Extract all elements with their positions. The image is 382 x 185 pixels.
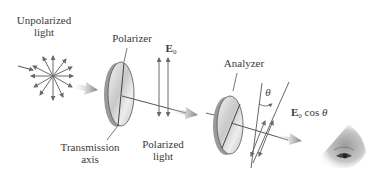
unpolarized-label-line2: light [14,26,74,38]
analyzer-disk-icon [206,96,243,155]
theta-symbol: θ [265,86,270,98]
incoming-ray [18,66,33,70]
polarizer-disk-icon [104,62,134,127]
polarizer-label-text: Polarizer [112,32,152,44]
beam-arrow-1-icon [71,82,98,95]
e0-cos-theta-label: E0 cos θ [291,106,327,122]
unpolarized-light-label: Unpolarized light [14,14,74,38]
transmission-label-line1: Transmission [58,141,122,153]
polarization-diagram: Unpolarized light Polarizer Transmission… [0,0,382,185]
e0-label: E0 [161,42,181,58]
polarizer-leader-line [124,48,127,62]
theta-label: θ [262,86,274,98]
analyzer-label: Analyzer [219,57,269,69]
unpolarized-label-line1: Unpolarized [14,14,74,26]
polarized-light-label: Polarized light [138,138,188,162]
unpolarized-light-starburst-icon [31,56,73,100]
theta-angle-arc [259,104,272,106]
observer-eye-icon [315,124,366,168]
polarized-label-line2: light [138,150,188,162]
e0-symbol: E [166,42,173,54]
transmission-axis-label: Transmission axis [58,141,122,165]
beam-arrow-3-icon [275,133,302,145]
cos-text: cos [302,106,322,118]
polarizer-label: Polarizer [107,32,157,44]
e0-subscript: 0 [173,48,177,56]
transmission-axis-leader-line [107,127,117,140]
transmission-label-line2: axis [58,153,122,165]
analyzer-label-text: Analyzer [224,57,264,69]
beam-arrow-2-icon [169,107,198,119]
analyzer-leader-line [233,73,237,91]
e0cos-theta-symbol: θ [322,106,327,118]
polarized-label-line1: Polarized [138,138,188,150]
